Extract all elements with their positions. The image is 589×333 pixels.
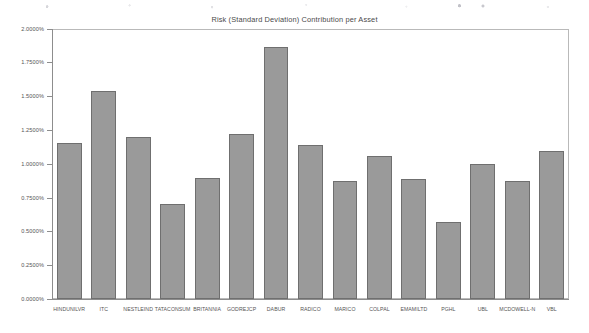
bar-marico [333,181,358,299]
y-axis-tick-label: 0.5000% [21,228,44,234]
x-axis-tick-label: RADICO [300,306,320,312]
y-axis-tick-label: 1.7500% [21,59,44,65]
y-axis-tick-label: 1.0000% [21,161,44,167]
bar-britannia [195,178,220,299]
y-axis-tick-label: 0.2500% [21,262,44,268]
bar-mcdowell-n [505,181,530,299]
x-axis-tick-label: HINDUNILVR [53,306,85,312]
x-axis-tick-label: PGHL [441,306,455,312]
x-axis-tick-label: NESTLEIND [123,306,153,312]
x-axis-tick-label: ITC [99,306,108,312]
x-axis-tick-label: VBL [547,306,557,312]
bar-hindunilvr [57,143,82,299]
y-axis-tick-label: 0.0000% [21,296,44,302]
y-axis-tick-label: 0.7500% [21,195,44,201]
y-axis-tick-label: 2.0000% [21,26,44,32]
bar-series [52,29,569,299]
x-axis-tick-label: COLPAL [369,306,389,312]
bar-colpal [367,156,392,299]
bar-dabur [264,47,289,299]
bar-tataconsum [160,204,185,299]
x-axis-tick-label: MCDOWELL-N [499,306,535,312]
scan-noise-band [0,0,589,12]
bar-itc [91,91,116,299]
risk-contribution-chart: Risk (Standard Deviation) Contribution p… [0,0,589,333]
x-axis-tick-label: MARICO [334,306,355,312]
bar-vbl [539,151,564,299]
bar-pghl [436,222,461,299]
x-axis-tick-label: EMAMILTD [400,306,427,312]
bar-ubl [470,164,495,299]
bar-radico [298,145,323,299]
x-axis-labels: HINDUNILVRITCNESTLEINDTATACONSUMBRITANNI… [52,302,569,318]
bar-emamiltd [401,179,426,299]
y-axis-tick-label: 1.5000% [21,93,44,99]
x-axis-tick-label: BRITANNIA [193,306,221,312]
x-axis-tick-label: GODREJCP [227,306,256,312]
x-axis-tick-label: UBL [478,306,488,312]
chart-title: Risk (Standard Deviation) Contribution p… [0,15,589,24]
x-axis-tick-label: TATACONSUM [155,306,191,312]
bar-nestleind [126,137,151,299]
y-axis-tick-label: 1.2500% [21,127,44,133]
x-axis-tick-label: DABUR [267,306,285,312]
bar-godrejcp [229,134,254,299]
